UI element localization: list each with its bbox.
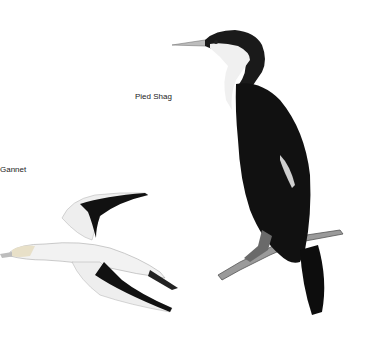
gannet-label: Gannet [0, 165, 26, 174]
pied-shag-figure [172, 30, 343, 315]
birds-artwork [0, 0, 365, 342]
bird-illustration: Pied Shag Gannet [0, 0, 365, 342]
gannet-figure [0, 193, 178, 312]
pied-shag-label: Pied Shag [135, 92, 172, 101]
